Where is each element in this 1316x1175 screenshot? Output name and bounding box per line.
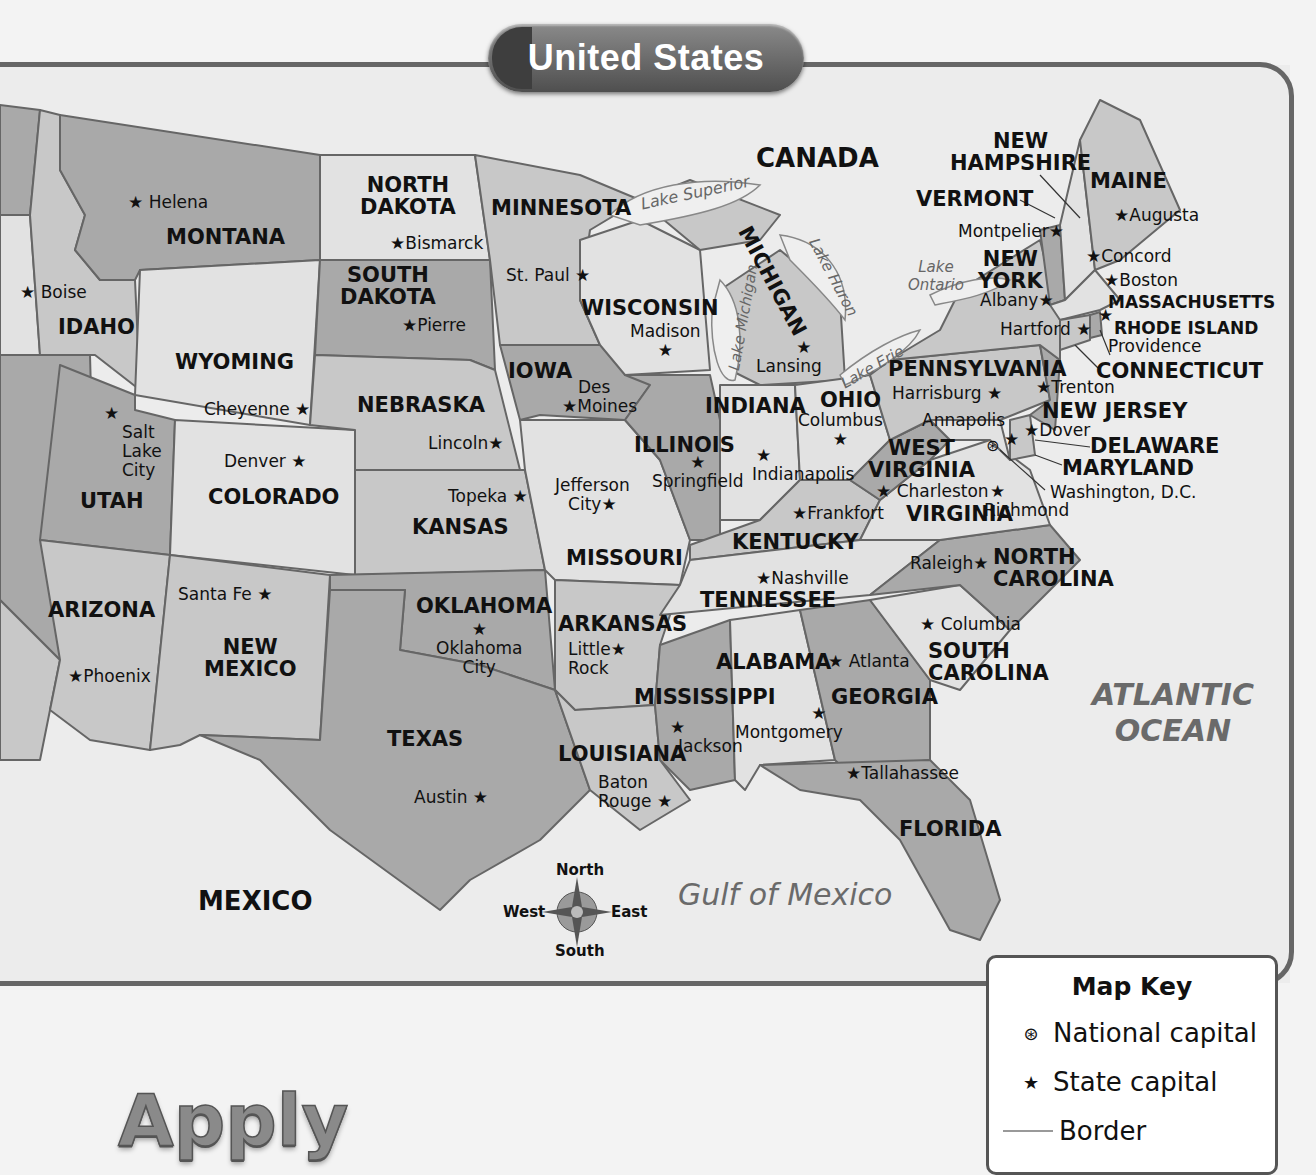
state-label-utah: UTAH (80, 490, 144, 512)
state-label-new-york: NEWYORK (978, 248, 1043, 292)
capital-annapolis: Annapolis★ (922, 411, 1019, 449)
state-label-delaware: DELAWARE (1090, 435, 1219, 457)
capital-bismarck: ★Bismarck (390, 234, 483, 253)
capital-topeka: Topeka ★ (448, 487, 528, 506)
national-capital-symbol: ⊛ (986, 436, 999, 455)
state-label-louisiana: LOUISIANA (558, 743, 686, 765)
capital-harrisburg: Harrisburg ★ (892, 384, 1002, 403)
state-label-tennessee: TENNESSEE (700, 589, 836, 611)
state-label-nebraska: NEBRASKA (357, 394, 485, 416)
state-label-wyoming: WYOMING (175, 351, 294, 373)
map-key-item-state-capital: ★ State capital (1009, 1067, 1217, 1097)
capital-trenton: ★Trenton (1036, 378, 1115, 397)
state-label-vermont: VERMONT (916, 188, 1033, 210)
capital-des-moines: Des★Moines (562, 378, 637, 416)
capital-columbus: Columbus★ (798, 411, 883, 449)
state-label-colorado: COLORADO (208, 486, 339, 508)
national-capital-icon: ⊛ (1009, 1023, 1053, 1044)
state-label-georgia: GEORGIA (831, 686, 938, 708)
capital-lincoln: Lincoln★ (428, 434, 503, 453)
capital-tallahassee: ★Tallahassee (846, 764, 959, 783)
compass-north: North (556, 863, 604, 878)
capital-nashville: ★Nashville (756, 569, 849, 588)
state-label-arizona: ARIZONA (48, 599, 155, 621)
state-capital-star-icon: ★ (1009, 1072, 1053, 1093)
state-label-arkansas: ARKANSAS (558, 613, 687, 635)
capital-hartford: Hartford ★ (1000, 320, 1091, 339)
capital-salt-lake-city: ★SaltLakeCity (104, 404, 162, 480)
capital-albany: Albany★ (980, 291, 1054, 310)
country-label-mexico: MEXICO (198, 888, 313, 914)
state-label-missouri: MISSOURI (566, 547, 683, 569)
state-label-north-carolina: NORTHCAROLINA (993, 546, 1114, 590)
state-label-new-mexico: NEWMEXICO (204, 636, 297, 680)
state-label-connecticut: CONNECTICUT (1096, 360, 1263, 382)
capital-phoenix: ★Phoenix (68, 667, 151, 686)
capital-little-rock: Little★Rock (568, 640, 626, 678)
compass-south: South (555, 944, 605, 959)
section-heading-apply: Apply (118, 1078, 348, 1162)
state-label-texas: TEXAS (387, 728, 463, 750)
capital-st-paul: St. Paul ★ (506, 266, 590, 285)
state-label-kentucky: KENTUCKY (732, 531, 858, 553)
state-label-idaho: IDAHO (58, 316, 135, 338)
map-key: Map Key ⊛ National capital ★ State capit… (986, 955, 1278, 1175)
capital-jefferson-city: JeffersonCity★ (555, 476, 630, 514)
capital-cheyenne: Cheyenne ★ (204, 400, 310, 419)
capital-concord: ★Concord (1086, 247, 1172, 266)
state-label-wisconsin: WISCONSIN (581, 297, 718, 319)
capital-santa-fe: Santa Fe ★ (178, 585, 272, 604)
capital-pierre: ★Pierre (402, 316, 466, 335)
capital-charleston: ★ Charleston (876, 482, 989, 501)
capital-boise: ★ Boise (20, 283, 87, 302)
state-label-new-jersey: NEW JERSEY (1042, 400, 1187, 422)
map-title: United States (528, 37, 765, 79)
capital-raleigh: Raleigh★ (910, 554, 989, 573)
lake-ontario-label: LakeOntario (908, 258, 964, 294)
ocean-label: ATLANTICOCEAN (1092, 677, 1254, 749)
state-label-oklahoma: OKLAHOMA (416, 595, 552, 617)
capital-dover: ★Dover (1024, 421, 1090, 440)
capital-denver: Denver ★ (224, 452, 307, 471)
capital-jackson: ★Jackson (670, 718, 743, 756)
capital-madison: Madison★ (630, 322, 701, 360)
state-label-maryland: MARYLAND (1062, 457, 1194, 479)
capital-indianapolis: ★Indianapolis (752, 446, 854, 484)
map-key-title: Map Key (989, 972, 1275, 1001)
state-label-maine: MAINE (1090, 170, 1167, 192)
capital-oklahoma-city: ★OklahomaCity (436, 620, 523, 677)
map-key-item-national-capital: ⊛ National capital (1009, 1018, 1257, 1048)
capital-washington-dc: Washington, D.C. (1050, 483, 1196, 502)
state-label-indiana: INDIANA (705, 395, 806, 417)
state-label-north-dakota: NORTHDAKOTA (360, 174, 456, 218)
capital-springfield: ★Springfield (652, 453, 744, 491)
capital-montgomery: ★Montgomery (735, 704, 843, 742)
compass-west: West (503, 905, 545, 920)
capital-baton-rouge: BatonRouge ★ (598, 773, 672, 811)
capital-montpelier: Montpelier★ (958, 222, 1064, 241)
state-label-kansas: KANSAS (412, 516, 509, 538)
capital-atlanta: ★ Atlanta (828, 652, 910, 671)
border-line-icon (1003, 1130, 1053, 1132)
state-label-florida: FLORIDA (899, 818, 1002, 840)
state-label-new-hampshire: NEWHAMPSHIRE (950, 130, 1091, 174)
capital-augusta: ★Augusta (1114, 206, 1199, 225)
state-label-alabama: ALABAMA (716, 651, 831, 673)
state-label-montana: MONTANA (166, 226, 285, 248)
capital-columbia: ★ Columbia (920, 615, 1021, 634)
capital-lansing: ★Lansing (756, 338, 822, 376)
capital-frankfort: ★Frankfort (792, 504, 884, 523)
state-label-minnesota: MINNESOTA (491, 197, 631, 219)
state-label-south-carolina: SOUTHCAROLINA (928, 640, 1049, 684)
state-label-south-dakota: SOUTHDAKOTA (340, 264, 436, 308)
gulf-label: Gulf of Mexico (678, 880, 892, 910)
capital-providence: ★Providence (1098, 306, 1202, 356)
capital-austin: Austin ★ (414, 788, 488, 807)
compass-east: East (611, 905, 647, 920)
country-label-canada: CANADA (756, 145, 879, 171)
map-key-item-border: Border (1003, 1116, 1146, 1146)
capital-boston: ★Boston (1104, 271, 1178, 290)
capital-helena: ★ Helena (128, 193, 208, 212)
title-banner: United States (488, 24, 804, 92)
state-label-ohio: OHIO (820, 389, 881, 411)
